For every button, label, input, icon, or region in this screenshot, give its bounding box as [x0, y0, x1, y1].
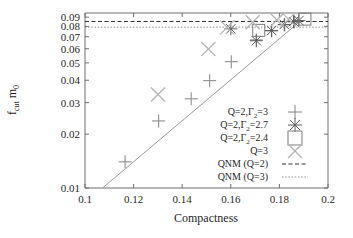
legend-label-refline-0: QNM (Q=2)	[218, 158, 268, 170]
y-tick-label: 0.01	[61, 182, 80, 194]
x-tick-label: 0.14	[173, 193, 193, 205]
x-tick-label: 0.2	[321, 193, 335, 205]
legend-symbol-1	[288, 118, 302, 132]
y-tick-label: 0.06	[61, 43, 81, 55]
legend-label-3: Q=3	[250, 145, 268, 156]
chart-figure: 0.10.120.140.160.180.2 0.010.020.030.040…	[0, 0, 353, 238]
y-tick-label: 0.04	[61, 74, 81, 86]
scatter-plot: 0.10.120.140.160.180.2 0.010.020.030.040…	[0, 0, 353, 238]
y-tick-label: 0.09	[61, 11, 81, 23]
svg-text:Compactness: Compactness	[174, 211, 238, 225]
x-tick-label: 0.18	[270, 193, 290, 205]
x-tick-label: 0.1	[78, 193, 92, 205]
x-tick-label: 0.12	[124, 193, 143, 205]
y-tick-label: 0.03	[61, 97, 81, 109]
x-tick-label: 0.16	[221, 193, 241, 205]
x-axis-title: Compactness	[174, 211, 238, 225]
y-tick-label: 0.02	[61, 128, 80, 140]
y-tick-label: 0.05	[61, 57, 81, 69]
y-tick-label: 0.07	[61, 31, 81, 43]
legend-label-refline-1: QNM (Q=3)	[218, 171, 268, 183]
